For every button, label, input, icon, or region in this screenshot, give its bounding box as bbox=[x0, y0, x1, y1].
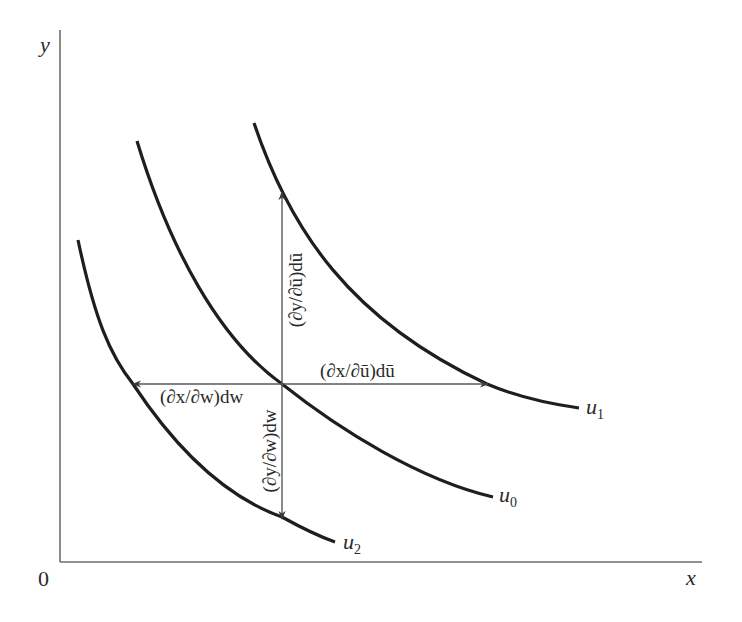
arrow-label-down: (∂y/∂w)dw bbox=[259, 409, 281, 492]
curve-labels: u1 u0 u2 bbox=[343, 394, 604, 557]
axes: y x 0 bbox=[38, 30, 702, 591]
curves bbox=[78, 123, 579, 542]
arrow-labels: (∂y/∂ū)dū (∂x/∂ū)dū (∂x/∂w)dw (∂y/∂w)dw bbox=[160, 252, 395, 492]
indifference-curve-diagram: y x 0 u1 u0 u2 bbox=[0, 0, 742, 622]
arrow-label-up: (∂y/∂ū)dū bbox=[285, 252, 307, 327]
curve-label-u1: u1 bbox=[586, 394, 604, 422]
y-axis-label: y bbox=[38, 32, 50, 57]
arrow-label-left: (∂x/∂w)dw bbox=[160, 386, 243, 408]
curve-u0 bbox=[137, 141, 493, 497]
origin-label: 0 bbox=[38, 566, 49, 591]
curve-label-u0: u0 bbox=[499, 482, 517, 510]
x-axis-label: x bbox=[685, 565, 696, 590]
curve-label-u2: u2 bbox=[343, 529, 361, 557]
arrow-label-right: (∂x/∂ū)dū bbox=[320, 360, 395, 382]
